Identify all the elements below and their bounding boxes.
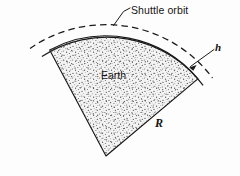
diagram-canvas [0,0,240,176]
radius-label: R [155,117,163,129]
shuttle-orbit-label: Shuttle orbit [131,5,188,16]
earth-label: Earth [101,70,126,81]
earth-shuttle-orbit-figure: Shuttle orbit Earth h R [0,0,240,176]
shuttle-orbit-leader [114,8,131,26]
altitude-arrow [189,50,214,71]
altitude-label: h [215,42,221,53]
earth-sector [50,36,198,156]
